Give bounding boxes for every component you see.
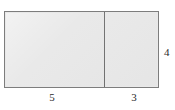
diagram-canvas: 5 3 4: [0, 0, 175, 110]
dimension-label-height: 4: [164, 47, 175, 58]
dimension-label-left-width: 5: [0, 92, 104, 103]
left-rectangle-region: [5, 12, 105, 87]
dimension-label-right-width: 3: [104, 92, 164, 103]
right-rectangle-region: [105, 12, 158, 87]
composite-rectangle: [4, 11, 159, 88]
